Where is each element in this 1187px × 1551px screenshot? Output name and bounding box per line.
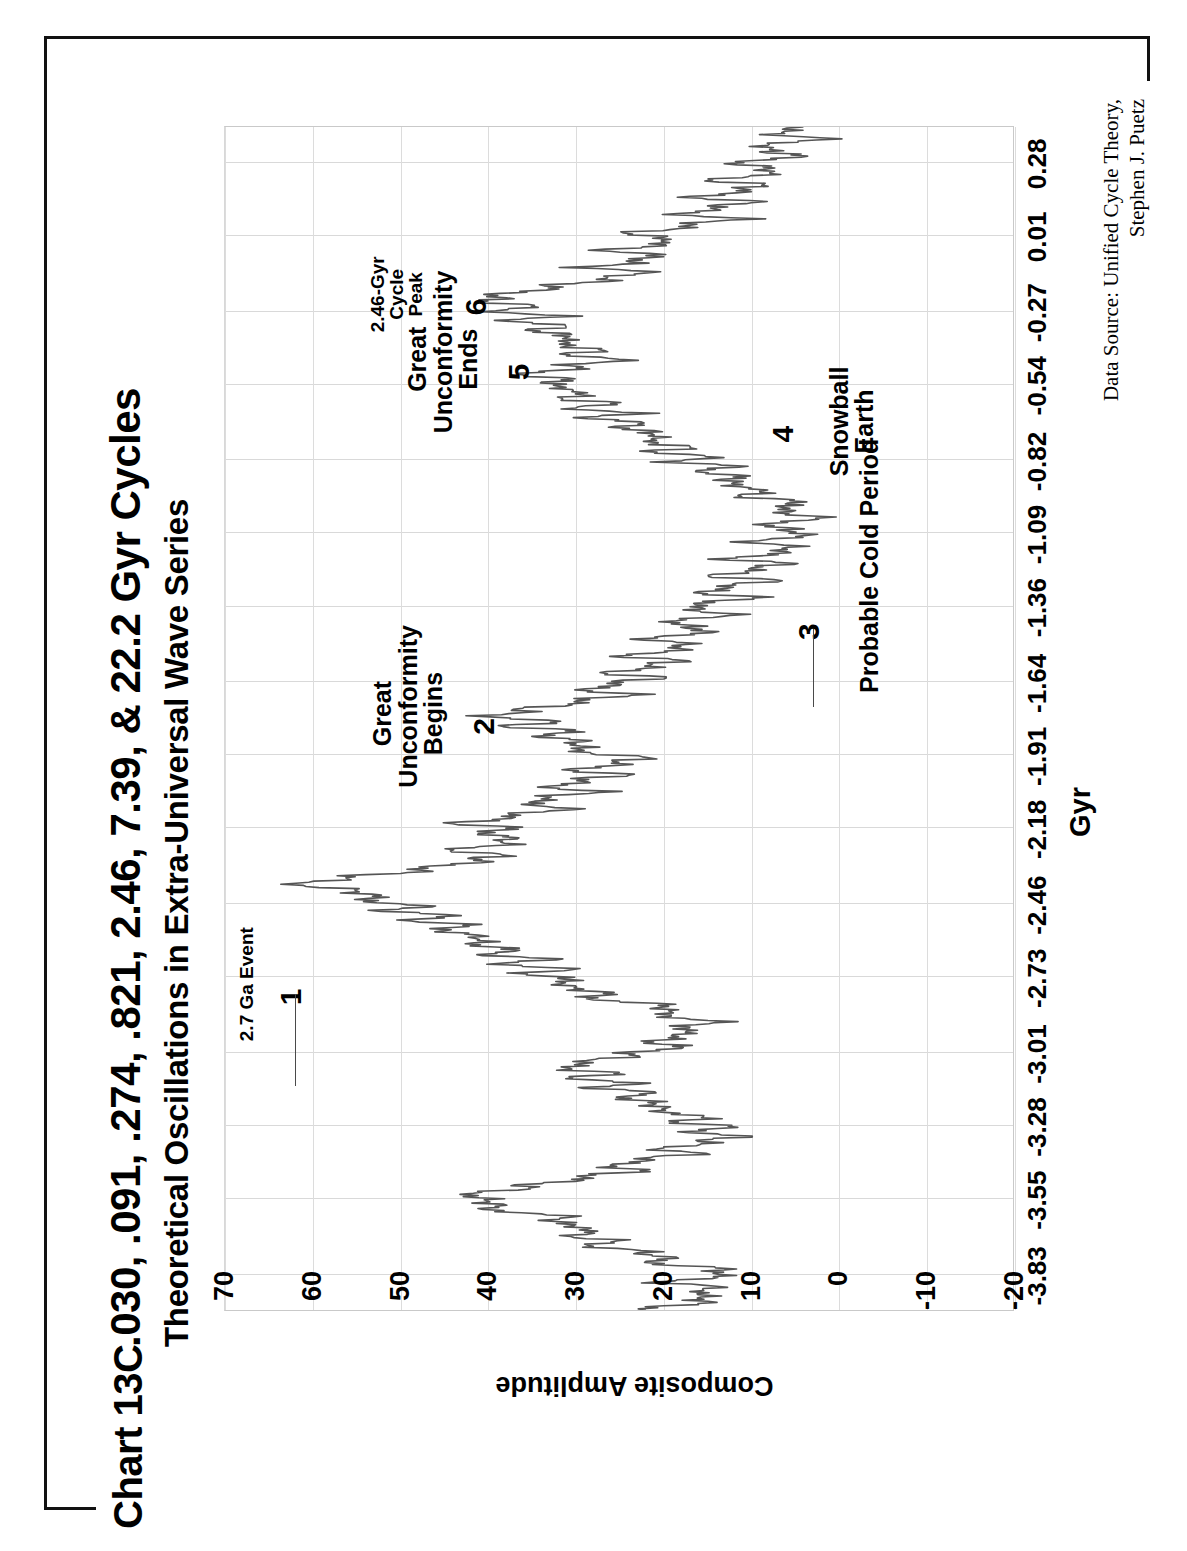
annotation-label: 2.46-Gyr Cycle Peak [368,220,426,368]
chart-title-primary: .030, .091, .274, .821, 2.46, 7.39, & 22… [102,388,150,1347]
rotated-chart-wrapper: Chart 13C .030, .091, .274, .821, 2.46, … [94,78,1187,1546]
annotation-number: 5 [504,364,535,381]
annotation-leader-line [813,629,814,707]
x-axis-title: Gyr [1064,81,1097,1543]
source-line-1: Data Source: Unified Cycle Theory, [1098,99,1124,401]
chart-id-label: Chart 13C [106,1345,151,1529]
y-axis-tick-label: 70 [209,1271,240,1391]
y-axis-tick-label: -10 [911,1271,942,1391]
annotation-label: Great Unconformity Begins [370,640,447,788]
chart-title-secondary: Theoretical Oscillations in Extra-Univer… [158,499,196,1347]
plot-area: 12.7 Ga Event2Great Unconformity Begins3… [224,126,1014,1311]
annotation-number: 6 [461,299,492,316]
annotation-number: 3 [794,623,825,640]
waveform-series [225,127,1013,1310]
source-line-2: Stephen J. Puetz [1124,99,1150,401]
annotation-number: 4 [768,426,799,443]
y-axis-tick-label: 50 [384,1271,415,1391]
y-axis-title: Composite Amplitude [425,1370,845,1401]
annotation-label: Snowball Earth [827,347,878,495]
data-source-note: Data Source: Unified Cycle Theory, Steph… [1098,99,1151,401]
annotation-label: 2.7 Ga Event [237,910,256,1058]
chart-canvas: Chart 13C .030, .091, .274, .821, 2.46, … [96,81,1187,1543]
horizontal-gridline [1015,127,1016,1310]
annotation-number: 2 [469,718,500,735]
scan-frame-border: Chart 13C .030, .091, .274, .821, 2.46, … [44,36,1150,1510]
y-axis-tick-label: 60 [296,1271,327,1391]
x-axis-tick-label: 0.28 [1022,104,1053,224]
annotation-number: 1 [276,988,307,1005]
annotation-label: Probable Cold Period [857,545,883,693]
chart-page: Chart 13C .030, .091, .274, .821, 2.46, … [0,0,1187,1551]
annotation-leader-line [295,994,296,1086]
